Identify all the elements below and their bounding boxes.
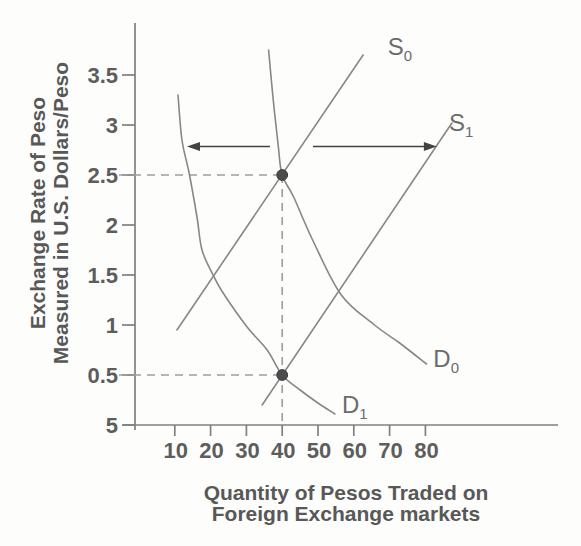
y-tick-label-1.5: 1.5 — [87, 263, 118, 288]
curve-label-subscript-D1: 1 — [359, 405, 367, 422]
curve-D1 — [178, 95, 335, 414]
curve-label-S0: S0 — [388, 33, 412, 64]
x-tick-label-80: 80 — [414, 438, 438, 463]
x-tick-label-20: 20 — [199, 438, 223, 463]
equilibrium-point-1 — [277, 170, 288, 181]
curve-S0 — [177, 55, 363, 330]
x-tick-label-10: 10 — [164, 438, 188, 463]
y-axis-title: Exchange Rate of Peso Measured in U.S. D… — [26, 43, 72, 383]
x-tick-label-30: 30 — [235, 438, 259, 463]
y-axis-title-line2: Measured in U.S. Dollars/Peso — [49, 43, 72, 383]
curve-label-subscript-S0: 0 — [404, 47, 412, 64]
curve-label-D1: D1 — [342, 391, 368, 422]
figure-supply-demand-peso: 3.532.521.510.551020304050607080S0S1D0D1… — [0, 0, 581, 546]
supply-demand-chart: 3.532.521.510.551020304050607080S0S1D0D1 — [0, 0, 581, 546]
x-axis-title-line2: Foreign Exchange markets — [186, 503, 506, 524]
shift-arrow-head-demand-shift-left — [187, 142, 200, 151]
curve-D0 — [269, 50, 427, 364]
y-tick-label-3: 3 — [106, 113, 118, 138]
curve-label-S1: S1 — [449, 109, 473, 140]
x-axis-title: Quantity of Pesos Traded on Foreign Exch… — [186, 482, 506, 524]
y-axis-title-line1: Exchange Rate of Peso — [26, 43, 49, 383]
x-axis-title-line1: Quantity of Pesos Traded on — [186, 482, 506, 503]
y-tick-label-2: 2 — [106, 213, 118, 238]
y-tick-label-3.5: 3.5 — [87, 63, 118, 88]
curve-label-subscript-S1: 1 — [465, 123, 473, 140]
y-tick-label-1: 1 — [106, 313, 118, 338]
curve-S1 — [262, 123, 452, 405]
x-tick-label-40: 40 — [271, 438, 295, 463]
y-tick-label-5: 5 — [106, 413, 118, 438]
curve-label-D0: D0 — [433, 345, 459, 376]
x-tick-label-60: 60 — [343, 438, 367, 463]
curve-label-subscript-D0: 0 — [451, 359, 459, 376]
y-tick-label-2.5: 2.5 — [87, 163, 118, 188]
y-tick-label-0.5: 0.5 — [87, 363, 118, 388]
x-tick-label-50: 50 — [307, 438, 331, 463]
x-tick-label-70: 70 — [378, 438, 402, 463]
equilibrium-point-2 — [277, 370, 288, 381]
shift-arrow-head-supply-shift-right — [424, 142, 437, 151]
